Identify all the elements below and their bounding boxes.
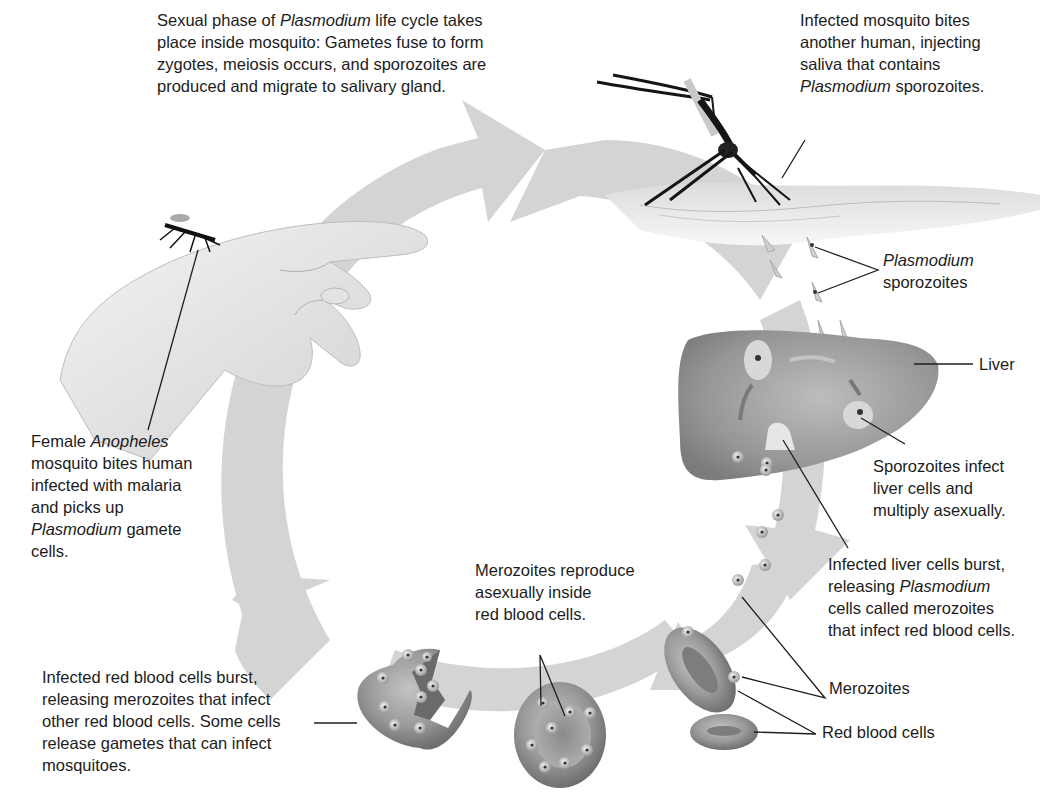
label-plasmodium-sporozoites: Plasmodium sporozoites: [883, 249, 1043, 293]
label-liver-cells-burst: Infected liver cells burst, releasing Pl…: [828, 553, 1058, 641]
label-female-anopheles: Female Anopheles mosquito bites human in…: [31, 430, 231, 562]
label-sporozoites-infect-liver: Sporozoites infect liver cells and multi…: [873, 455, 1053, 521]
label-red-blood-cells: Red blood cells: [822, 721, 935, 743]
label-merozoites-reproduce: Merozoites reproduce asexually inside re…: [475, 559, 675, 625]
label-sexual-phase: Sexual phase of Plasmodium life cycle ta…: [157, 9, 577, 97]
skin-illustration: [605, 183, 1040, 245]
label-mosquito-bites-another: Infected mosquito bites another human, i…: [800, 9, 1050, 97]
label-merozoites: Merozoites: [829, 677, 910, 699]
label-rbc-burst: Infected red blood cells burst, releasin…: [42, 666, 322, 776]
label-liver: Liver: [979, 353, 1015, 375]
infected-red-blood-cell: [514, 682, 606, 788]
